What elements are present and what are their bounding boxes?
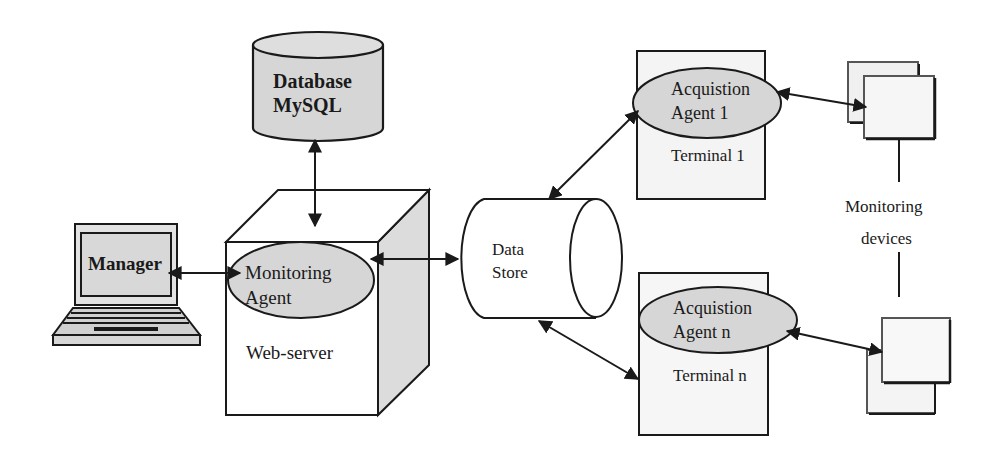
terminal-1-box: [633, 51, 781, 199]
web-server-label: Web-server: [246, 342, 333, 364]
data-store-label-line2: Store: [492, 263, 528, 283]
database-label-line1: Database: [273, 70, 352, 93]
datastore-terminaln-arrow: [539, 321, 638, 379]
devices-top-icon: [848, 62, 935, 139]
terminal-1-label: Terminal 1: [671, 146, 745, 166]
devices-bottom-icon: [867, 318, 950, 414]
devices-label-line2: devices: [861, 229, 912, 249]
diagram-graphics: [0, 0, 997, 456]
devices-label-line1: Monitoring: [845, 197, 922, 217]
data-store-label-line1: Data: [492, 240, 524, 260]
terminaln-devices-arrow: [787, 331, 882, 352]
database-label-line2: MySQL: [273, 94, 342, 117]
monitoring-agent-label-line1: Monitoring: [245, 262, 332, 284]
acquisition-agent-n-label-line2: Agent n: [673, 322, 731, 343]
acquisition-agent-1-label-line2: Agent 1: [671, 103, 729, 124]
terminal-n-label: Terminal n: [673, 366, 747, 386]
manager-label: Manager: [88, 253, 162, 275]
data-store-cylinder-icon: [461, 199, 622, 318]
architecture-diagram: Database MySQL Manager Monitoring Agent …: [0, 0, 997, 456]
acquisition-agent-1-label-line1: Acquistion: [671, 79, 750, 100]
acquisition-agent-n-label-line1: Acquistion: [673, 298, 752, 319]
monitoring-agent-label-line2: Agent: [245, 287, 291, 309]
laptop-icon: [53, 224, 200, 345]
datastore-terminal1-arrow: [549, 111, 638, 199]
